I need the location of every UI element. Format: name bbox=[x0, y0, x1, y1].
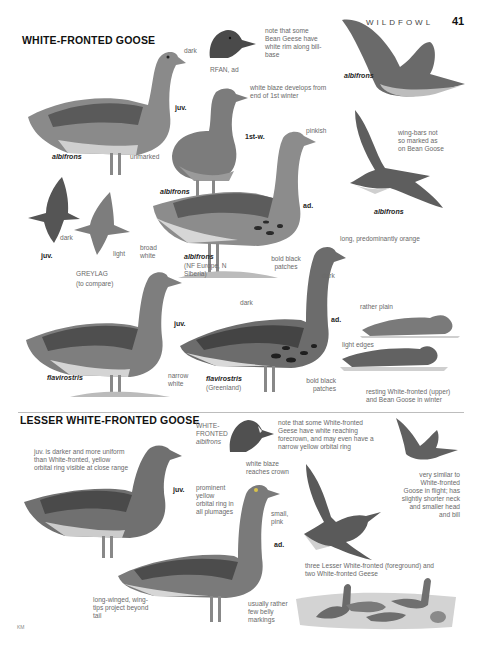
label-lwf-ad-age: ad. bbox=[274, 541, 284, 548]
label-orbital-ring: prominent yellow orbital ring in all plu… bbox=[196, 484, 234, 516]
label-flav-dark-back: dark bbox=[240, 299, 253, 307]
goose-illustration-flavirostris-juv bbox=[20, 265, 190, 400]
goose-head-rfan bbox=[208, 28, 258, 60]
label-flav-ad-age: ad. bbox=[331, 316, 341, 323]
label-long-winged: long-winged, wing-tips project beyond ta… bbox=[93, 596, 155, 620]
note-wing-bars: wing-bars not so marked as on Bean Goose bbox=[398, 129, 444, 153]
artist-credit: KM bbox=[17, 624, 25, 630]
label-ad-age: ad. bbox=[303, 202, 313, 209]
label-flav-ad-region: (Greenland) bbox=[206, 384, 241, 392]
goose-flight-lower bbox=[345, 108, 445, 213]
goose-illustration-flavirostris-adult bbox=[176, 238, 346, 398]
label-dark: dark bbox=[184, 47, 197, 55]
goose-head-white-fronted bbox=[228, 418, 274, 454]
note-bean-geese: note that some Bean Geese have white rim… bbox=[265, 27, 325, 59]
label-light-edges: light edges bbox=[342, 341, 374, 349]
label-belly-markings: usually rather few belly markings bbox=[248, 600, 292, 624]
label-juv-taxon: albifrons bbox=[52, 153, 82, 160]
label-flav-juv-taxon: flavirostris bbox=[47, 374, 83, 381]
label-flight-juv-age: juv. bbox=[41, 252, 53, 259]
note-lwf-flight: very similar to White-fronted Goose in f… bbox=[400, 471, 460, 519]
label-wf-head-1: WHITE- bbox=[196, 422, 219, 430]
section-divider bbox=[18, 412, 464, 413]
label-broad-white: broad white bbox=[140, 244, 170, 260]
goose-group-illustration bbox=[296, 577, 456, 629]
label-rather-plain: rather plain bbox=[360, 303, 393, 311]
note-wf-forecrown: note that some White-fronted Geese have … bbox=[278, 419, 374, 451]
label-flav-dark-head: dark bbox=[322, 272, 335, 280]
label-pinkish: pinkish bbox=[306, 127, 327, 135]
section-title-lesser-white-fronted: LESSER WHITE-FRONTED GOOSE bbox=[20, 414, 200, 426]
goose-flight-upper bbox=[340, 12, 475, 107]
label-bold-black-patches-2: bold black patches bbox=[300, 377, 336, 393]
label-flav-bill: long, predominantly orange bbox=[340, 235, 420, 243]
label-blaze-crown: white blaze reaches crown bbox=[246, 460, 294, 476]
label-flight-dark: dark bbox=[60, 234, 73, 242]
label-flight-lower-taxon: albifrons bbox=[374, 208, 404, 215]
caption-group-geese: three Lesser White-fronted (foreground) … bbox=[305, 562, 445, 578]
label-wf-head-taxon: albifrons bbox=[196, 438, 221, 446]
goose-resting-white-fronted bbox=[360, 312, 460, 338]
label-small-pink: small, pink bbox=[271, 510, 295, 526]
caption-resting-geese: resting White-fronted (upper) and Bean G… bbox=[366, 388, 461, 404]
label-flav-ad-taxon: flavirostris bbox=[206, 375, 242, 382]
goose-flight-lwf-small bbox=[392, 416, 462, 464]
label-flight-upper-taxon: albifrons bbox=[344, 72, 374, 79]
label-rfan: RFAN, ad bbox=[210, 66, 239, 74]
note-blaze-develops: white blaze develops from end of 1st win… bbox=[250, 84, 330, 100]
goose-flight-lwf-large bbox=[296, 462, 386, 562]
label-flight-light: light bbox=[113, 250, 125, 258]
label-wf-head-2: FRONTED bbox=[196, 430, 228, 438]
